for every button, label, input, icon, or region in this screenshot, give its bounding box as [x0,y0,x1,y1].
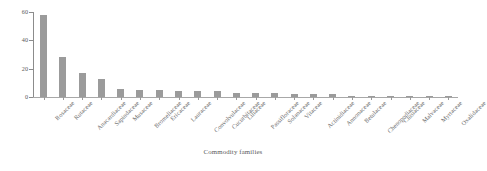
bar-slot [419,12,438,97]
bar-slot [381,12,400,97]
bar [406,96,413,97]
x-tick-label: Liliaceae [246,100,267,121]
bar [445,96,452,97]
bar [291,94,298,97]
x-tick-label: Rosaceae [54,100,76,122]
bar [368,96,375,97]
y-tick-label-60: 60 [4,9,28,15]
bar [348,96,355,97]
bar-slot [362,12,381,97]
bar [387,96,394,97]
bar [59,57,66,97]
x-tick-label: Oxalidaceae [461,100,487,127]
bar-slot [73,12,92,97]
bar [329,94,336,97]
bar-slot [207,12,226,97]
bar [194,91,201,97]
bar-slot [188,12,207,97]
bar [233,93,240,97]
bar [175,91,182,97]
bar-series [34,12,458,97]
bar [40,15,47,97]
bar-slot [265,12,284,97]
bar [98,79,105,97]
x-axis-line [33,97,458,98]
bar-slot [285,12,304,97]
bar [117,89,124,98]
bar-slot [439,12,458,97]
x-axis-tick-labels: RosaceaeRutaceaeAnacardiaceaeSapindaceae… [0,100,466,148]
bar [136,90,143,97]
y-tick-label-40: 40 [4,37,28,43]
bar [156,90,163,97]
bar-slot [304,12,323,97]
bar-slot [111,12,130,97]
bar-slot [169,12,188,97]
bar [426,96,433,97]
bar-slot [323,12,342,97]
bar-slot [227,12,246,97]
bar-slot [400,12,419,97]
bar [214,91,221,97]
bar [271,93,278,97]
bar [252,93,259,97]
bar-slot [150,12,169,97]
bar [310,94,317,97]
x-tick-label: Rutaceae [73,100,94,121]
y-tick-label-20: 20 [4,66,28,72]
x-axis-title: Commodity families [0,148,466,155]
bar-slot [246,12,265,97]
bar-slot [34,12,53,97]
bar [79,73,86,97]
x-tick-label: Lauraceae [189,100,212,123]
bar-slot [53,12,72,97]
bar-slot [130,12,149,97]
bar-slot [92,12,111,97]
bar-slot [342,12,361,97]
